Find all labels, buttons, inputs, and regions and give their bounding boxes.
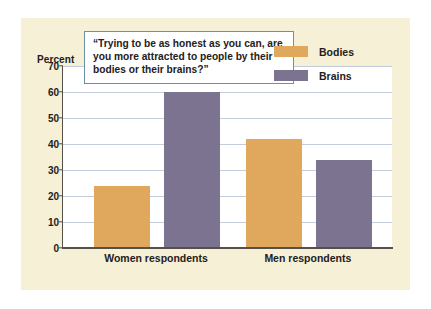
y-axis-tick-label: 20 [37,191,59,202]
y-axis-tick-mark [59,91,63,92]
gridline [63,144,392,145]
x-axis-line [62,247,393,249]
y-axis-tick-mark [59,221,63,222]
legend-item-brains: Brains [274,66,372,85]
y-axis-tick-label: 30 [37,165,59,176]
y-axis-tick-mark [59,143,63,144]
y-axis-tick-mark [59,65,63,66]
bar-bodies-men [246,139,302,248]
y-axis-tick-mark [59,195,63,196]
y-axis-tick-label: 40 [37,139,59,150]
y-axis-tick-label: 50 [37,113,59,124]
y-axis-tick-mark [59,169,63,170]
legend-label-bodies: Bodies [319,46,354,58]
y-axis-tick-label: 70 [37,61,59,72]
y-axis-tick-labels: 010203040506070 [33,66,59,248]
x-axis-category-label: Women respondents [104,252,208,264]
bar-brains-men [316,160,372,248]
bar-bodies-women [94,186,150,248]
y-axis-tick-label: 10 [37,217,59,228]
y-axis-tick-mark [59,247,63,248]
figure-card: Percent 010203040506070 “Trying to be as… [21,18,410,290]
legend-label-brains: Brains [319,70,352,82]
chart-legend: Bodies Brains [274,42,372,90]
y-axis-tick-label: 0 [37,243,59,254]
legend-item-bodies: Bodies [274,42,372,61]
y-axis-tick-mark [59,117,63,118]
plot-area [62,66,392,248]
x-axis-category-label: Men respondents [264,252,351,264]
callout-box: “Trying to be as honest as you can, are … [84,31,294,84]
gridline [63,118,392,119]
y-axis-tick-label: 60 [37,87,59,98]
gridline [63,92,392,93]
legend-swatch-bodies [274,46,308,57]
callout-text: “Trying to be as honest as you can, are … [93,37,286,77]
bar-brains-women [164,92,220,248]
legend-swatch-brains [274,70,308,81]
